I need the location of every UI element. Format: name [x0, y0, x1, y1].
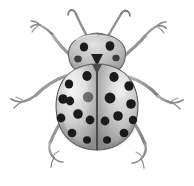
- beetle-figure: [0, 0, 194, 186]
- pronotum-spot: [74, 56, 82, 63]
- elytra-spot: [65, 79, 73, 88]
- elytra-spot: [82, 71, 91, 81]
- pronotum-spot: [112, 55, 119, 61]
- elytra-spot: [83, 136, 91, 144]
- elytra-spot: [68, 129, 77, 137]
- pronotum-spot: [80, 42, 88, 51]
- elytra-spot: [57, 114, 66, 123]
- elytra-spot: [73, 109, 83, 119]
- elytra-spot: [120, 129, 129, 137]
- elytra-spot: [109, 72, 118, 82]
- pronotum-spot: [106, 41, 115, 51]
- elytra-spot: [66, 97, 74, 106]
- elytra-spot: [105, 93, 116, 104]
- elytra-spot: [86, 116, 95, 125]
- elytra-spot: [124, 81, 133, 91]
- elytra-spot: [129, 116, 137, 124]
- elytra-spot: [101, 117, 110, 126]
- beetle-illustration-canvas: Spotted lady beetle: [0, 0, 194, 186]
- elytra-spot: [113, 111, 123, 121]
- elytra-spot: [126, 99, 136, 109]
- elytra: [56, 64, 138, 150]
- elytra-spot-faint: [83, 92, 93, 102]
- elytra-spot: [103, 136, 111, 144]
